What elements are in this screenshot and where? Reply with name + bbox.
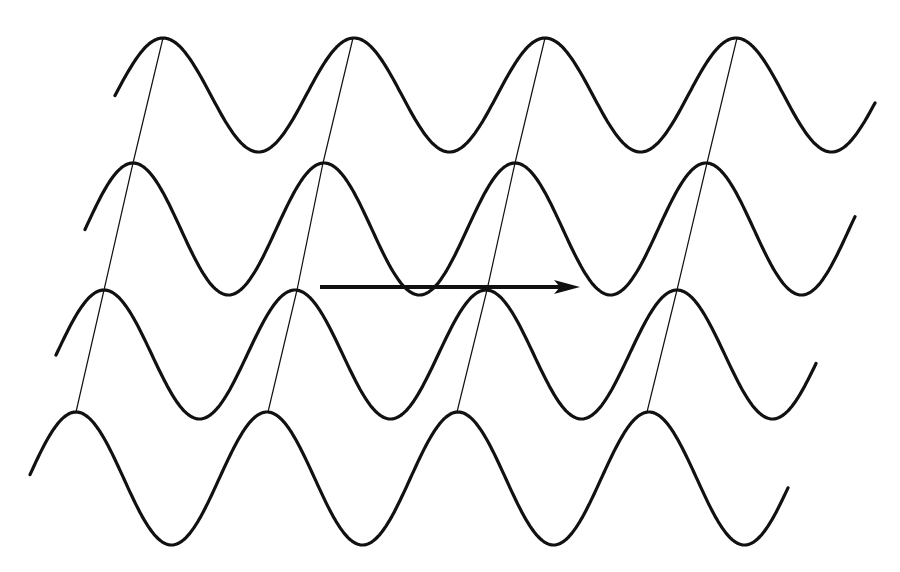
wave-1-sine-curve: [115, 38, 875, 152]
wavefront-1-line: [76, 38, 163, 412]
propagation-arrow: [320, 280, 580, 294]
wavefront-2-line: [268, 38, 353, 412]
wavefront-line-group: [76, 38, 737, 412]
wave-2-sine-curve: [85, 163, 855, 295]
wave-3-sine-curve: [56, 290, 816, 419]
wave-4-sine-curve: [30, 412, 788, 545]
wave-diagram: [0, 0, 900, 572]
wave-group: [30, 38, 875, 545]
wave-diagram-svg: [0, 0, 900, 572]
